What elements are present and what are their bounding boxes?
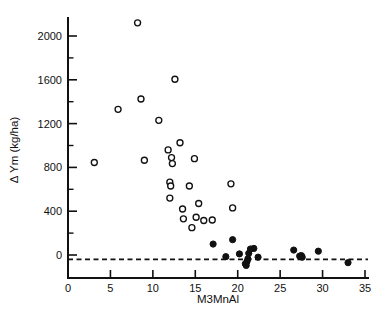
x-tick-label: 0	[65, 282, 71, 294]
y-axis-tick-labels: 0400800120016002000	[38, 30, 62, 261]
data-point-open	[167, 195, 173, 201]
data-point-open	[177, 140, 183, 146]
data-point-filled	[255, 254, 261, 260]
data-point-open	[115, 106, 121, 112]
data-point-filled	[251, 245, 257, 251]
data-point-open	[168, 183, 174, 189]
data-point-filled	[236, 251, 242, 257]
data-point-open	[196, 201, 202, 207]
series-filled-circles	[210, 237, 351, 269]
x-axis-ticks	[68, 270, 365, 278]
data-point-filled	[223, 254, 229, 260]
data-point-open	[169, 155, 175, 161]
data-point-open	[189, 225, 195, 231]
series-open-circles	[91, 20, 235, 231]
y-tick-label: 800	[44, 161, 62, 173]
y-axis-ticks	[68, 36, 77, 255]
plot-canvas: 0400800120016002000 05101520253035 M3MnA…	[0, 0, 388, 321]
x-tick-label: 25	[274, 282, 286, 294]
x-tick-label: 10	[147, 282, 159, 294]
data-point-filled	[299, 254, 305, 260]
data-point-open	[138, 96, 144, 102]
x-tick-label: 30	[316, 282, 328, 294]
data-point-open	[201, 218, 207, 224]
data-point-open	[141, 157, 147, 163]
data-point-open	[180, 216, 186, 222]
data-point-filled	[291, 247, 297, 253]
data-point-open	[230, 205, 236, 211]
data-point-filled	[230, 237, 236, 243]
x-tick-label: 5	[107, 282, 113, 294]
y-tick-label: 1600	[38, 74, 62, 86]
scatter-plot-figure: 0400800120016002000 05101520253035 M3MnA…	[0, 0, 388, 321]
data-point-filled	[210, 241, 216, 247]
data-point-open	[180, 206, 186, 212]
x-tick-label: 35	[359, 282, 371, 294]
data-point-open	[186, 183, 192, 189]
data-point-open	[165, 147, 171, 153]
y-tick-label: 400	[44, 205, 62, 217]
y-tick-label: 0	[56, 249, 62, 261]
data-point-open	[91, 159, 97, 165]
data-point-open	[135, 20, 141, 26]
data-point-open	[228, 181, 234, 187]
y-axis-title: Δ Ym (kg/ha)	[8, 117, 20, 184]
data-point-open	[172, 76, 178, 82]
y-tick-label: 2000	[38, 30, 62, 42]
data-point-filled	[315, 248, 321, 254]
x-axis-title: M3MnAl	[197, 293, 239, 305]
y-tick-label: 1200	[38, 118, 62, 130]
data-point-open	[156, 117, 162, 123]
data-point-open	[193, 214, 199, 220]
data-point-filled	[345, 260, 351, 266]
data-point-open	[169, 161, 175, 167]
data-point-open	[209, 217, 215, 223]
data-point-open	[191, 156, 197, 162]
